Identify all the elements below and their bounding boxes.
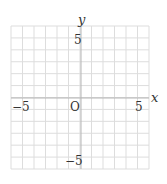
y-tick-label-neg5: −5: [65, 154, 83, 168]
x-axis-label: x: [151, 90, 159, 105]
coordinate-plane: y x 5 O −5 5 −5: [0, 0, 167, 184]
y-axis-label: y: [77, 12, 86, 27]
x-tick-label-5: 5: [135, 100, 143, 114]
origin-label: O: [70, 100, 80, 114]
y-tick-label-5: 5: [74, 33, 82, 47]
x-tick-label-neg5: −5: [12, 100, 30, 114]
